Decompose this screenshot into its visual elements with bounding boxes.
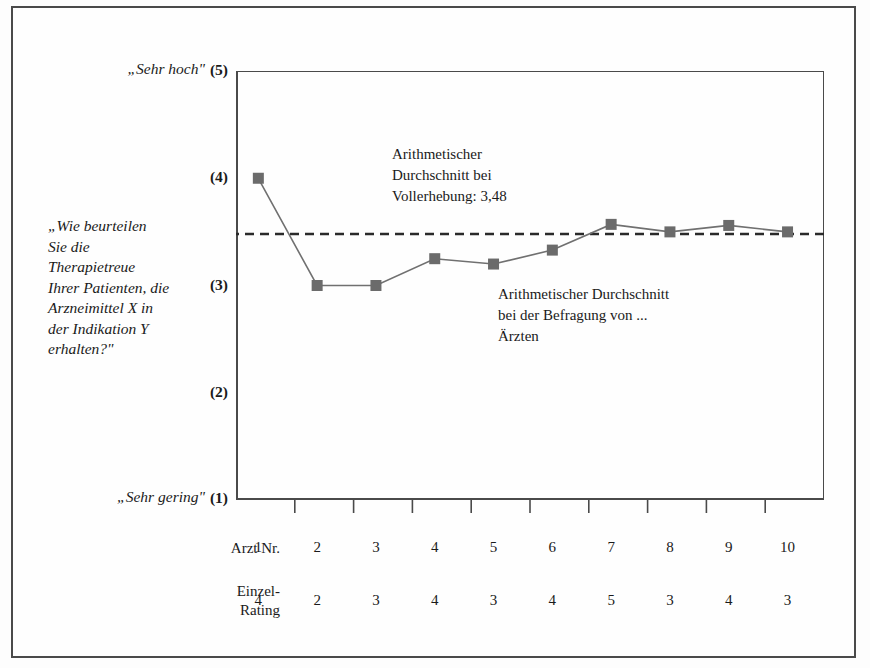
data-table: Arzt Nr. Einzel- Rating 1234567891042343…	[0, 0, 870, 668]
table-cell-arzt-nr: 9	[709, 539, 749, 556]
table-cell-einzel-rating: 4	[238, 592, 278, 609]
table-cell-arzt-nr: 5	[474, 539, 514, 556]
table-cell-einzel-rating: 5	[591, 592, 631, 609]
table-cell-einzel-rating: 3	[768, 592, 808, 609]
table-cell-arzt-nr: 4	[415, 539, 455, 556]
table-cell-einzel-rating: 4	[415, 592, 455, 609]
table-cell-arzt-nr: 7	[591, 539, 631, 556]
table-cell-arzt-nr: 10	[768, 539, 808, 556]
table-cell-einzel-rating: 3	[474, 592, 514, 609]
table-cell-arzt-nr: 1	[238, 539, 278, 556]
table-cell-einzel-rating: 3	[356, 592, 396, 609]
table-cell-arzt-nr: 3	[356, 539, 396, 556]
table-cell-arzt-nr: 8	[650, 539, 690, 556]
table-cell-einzel-rating: 4	[709, 592, 749, 609]
table-cell-einzel-rating: 2	[297, 592, 337, 609]
figure-root: „Sehr hoch" „Sehr gering" „Wie beurteile…	[0, 0, 870, 668]
table-cell-arzt-nr: 6	[532, 539, 572, 556]
table-cell-einzel-rating: 3	[650, 592, 690, 609]
table-cell-einzel-rating: 4	[532, 592, 572, 609]
table-cell-arzt-nr: 2	[297, 539, 337, 556]
